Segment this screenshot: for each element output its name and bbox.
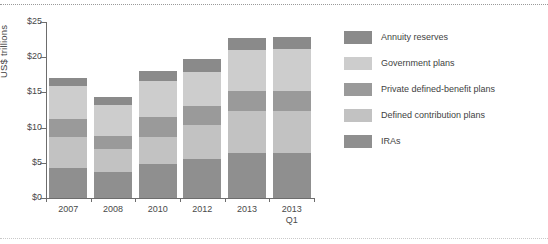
stacked-bar[interactable]: [273, 37, 311, 198]
legend-label: Annuity reserves: [381, 32, 448, 42]
legend-item[interactable]: Private defined-benefit plans: [344, 76, 540, 102]
top-divider-rule: [0, 4, 548, 5]
legend-swatch-icon: [344, 31, 372, 44]
x-tick-mark: [225, 198, 226, 202]
bar-segment[interactable]: [49, 168, 87, 198]
bar-segment[interactable]: [139, 137, 177, 164]
bar-segment[interactable]: [49, 86, 87, 119]
y-axis-title: US$ trillions: [0, 25, 9, 78]
bar-segment[interactable]: [228, 50, 266, 91]
stacked-bar[interactable]: [228, 38, 266, 198]
legend-item[interactable]: Government plans: [344, 50, 540, 76]
legend-swatch-icon: [344, 83, 372, 96]
bar-segment[interactable]: [139, 71, 177, 82]
legend-item[interactable]: Annuity reserves: [344, 24, 540, 50]
bar-segment[interactable]: [49, 119, 87, 137]
legend-label: Private defined-benefit plans: [381, 84, 495, 94]
legend-swatch-icon: [344, 109, 372, 122]
bar-segment[interactable]: [139, 81, 177, 117]
legend-swatch-icon: [344, 57, 372, 70]
x-tick-label: 2010: [135, 204, 180, 215]
bar-segment[interactable]: [273, 153, 311, 198]
y-tick-mark: [40, 198, 47, 199]
bar-segment[interactable]: [228, 111, 266, 153]
y-tick-mark: [40, 57, 47, 58]
x-tick-mark: [91, 198, 92, 202]
x-tick-mark: [269, 198, 270, 202]
bar-segment[interactable]: [183, 125, 221, 159]
x-tick-mark: [314, 198, 315, 202]
x-tick-label: 2007: [46, 204, 91, 215]
bar-segment[interactable]: [49, 137, 87, 168]
bar-segment[interactable]: [94, 136, 132, 149]
bar-segment[interactable]: [49, 78, 87, 86]
legend-item[interactable]: IRAs: [344, 128, 540, 154]
y-tick-mark: [40, 128, 47, 129]
bar-segment[interactable]: [273, 91, 311, 111]
chart-figure: US$ trillions $0$5$10$15$20$25 200720082…: [0, 0, 548, 244]
bar-segment[interactable]: [183, 106, 221, 125]
legend-swatch-icon: [344, 135, 372, 148]
bar-segment[interactable]: [94, 149, 132, 172]
y-tick-mark: [40, 22, 47, 23]
x-tick-label: 2013 Q1: [269, 204, 314, 226]
bar-segment[interactable]: [94, 105, 132, 136]
bar-segment[interactable]: [273, 111, 311, 153]
stacked-bar[interactable]: [94, 97, 132, 198]
y-tick-mark: [40, 92, 47, 93]
x-tick-label: 2008: [91, 204, 136, 215]
stacked-bar[interactable]: [139, 71, 177, 198]
bar-segment[interactable]: [183, 159, 221, 198]
bar-segment[interactable]: [228, 153, 266, 198]
stacked-bar[interactable]: [49, 78, 87, 198]
chart-legend: Annuity reservesGovernment plansPrivate …: [344, 24, 540, 154]
legend-label: Defined contribution plans: [381, 110, 485, 120]
stacked-bar[interactable]: [183, 59, 221, 198]
legend-item[interactable]: Defined contribution plans: [344, 102, 540, 128]
bar-segment[interactable]: [139, 164, 177, 198]
x-tick-label: 2013: [225, 204, 270, 215]
bar-segment[interactable]: [228, 91, 266, 111]
bar-segment[interactable]: [183, 72, 221, 106]
x-tick-label: 2012: [180, 204, 225, 215]
bottom-divider-rule: [0, 238, 548, 239]
bar-segment[interactable]: [228, 38, 266, 50]
bar-segment[interactable]: [183, 59, 221, 72]
y-tick-mark: [40, 163, 47, 164]
legend-label: IRAs: [381, 136, 401, 146]
x-tick-mark: [135, 198, 136, 202]
legend-label: Government plans: [381, 58, 455, 68]
bar-segment[interactable]: [94, 172, 132, 198]
bar-segment[interactable]: [94, 97, 132, 105]
bar-segment[interactable]: [273, 37, 311, 49]
bar-segment[interactable]: [139, 117, 177, 137]
bar-segment[interactable]: [273, 49, 311, 91]
plot-area: $0$5$10$15$20$25: [46, 22, 314, 198]
x-tick-mark: [180, 198, 181, 202]
